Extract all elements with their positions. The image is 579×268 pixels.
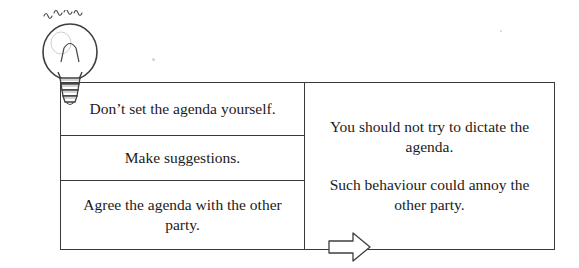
left-item-3: Agree the agenda with the other party. <box>61 181 304 249</box>
right-arrow-icon <box>327 230 372 264</box>
right-column: You should not try to dictate the agenda… <box>304 82 555 250</box>
diagram-body: Don’t set the agenda yourself. Make sugg… <box>60 82 555 250</box>
scan-speck <box>500 30 502 32</box>
right-paragraph-1: You should not try to dictate the agenda… <box>321 117 538 157</box>
scan-speck <box>152 58 155 61</box>
left-column: Don’t set the agenda yourself. Make sugg… <box>60 82 305 250</box>
diagram-page: Don’t set the agenda yourself. Make sugg… <box>0 0 579 268</box>
left-item-2: Make suggestions. <box>61 136 304 181</box>
left-item-1: Don’t set the agenda yourself. <box>61 83 304 136</box>
right-paragraph-2: Such behaviour could annoy the other par… <box>321 175 538 215</box>
